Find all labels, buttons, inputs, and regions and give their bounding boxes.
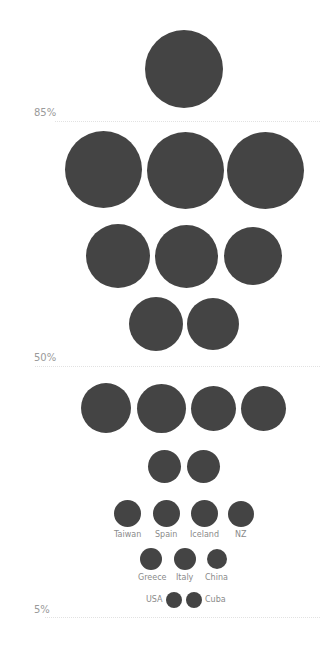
label-iceland: Iceland — [190, 530, 219, 539]
data-bubble — [187, 298, 239, 350]
bubble-chart: 85% 50% 5% Taiwan Spain Iceland NZ Greec… — [0, 0, 327, 646]
data-bubble — [148, 450, 181, 483]
y-tick-50: 50% — [34, 352, 56, 363]
gridline-85 — [55, 121, 320, 122]
y-tick-5: 5% — [34, 604, 50, 615]
data-bubble — [129, 297, 183, 351]
bubble-italy — [174, 548, 196, 570]
bubble-nz — [228, 501, 254, 527]
data-bubble — [241, 386, 286, 431]
gridline-50 — [35, 366, 320, 367]
bubble-spain — [153, 500, 180, 527]
data-bubble — [81, 383, 131, 433]
data-bubble — [145, 30, 223, 108]
label-spain: Spain — [155, 530, 177, 539]
label-cuba: Cuba — [205, 595, 226, 604]
data-bubble — [147, 132, 224, 209]
data-bubble — [191, 386, 236, 431]
bubble-greece — [140, 548, 162, 570]
data-bubble — [137, 384, 186, 433]
gridline-5 — [45, 617, 320, 618]
bubble-china — [207, 549, 227, 569]
bubble-iceland — [191, 500, 218, 527]
label-taiwan: Taiwan — [114, 530, 141, 539]
data-bubble — [224, 227, 282, 285]
data-bubble — [187, 450, 220, 483]
label-usa: USA — [146, 595, 163, 604]
bubble-usa — [166, 592, 182, 608]
data-bubble — [86, 224, 150, 288]
label-nz: NZ — [235, 530, 246, 539]
bubble-taiwan — [114, 500, 141, 527]
label-italy: Italy — [176, 573, 193, 582]
data-bubble — [227, 132, 304, 209]
data-bubble — [155, 225, 218, 288]
label-china: China — [205, 573, 228, 582]
bubble-cuba — [186, 592, 202, 608]
y-tick-85: 85% — [34, 107, 56, 118]
data-bubble — [65, 131, 142, 208]
label-greece: Greece — [138, 573, 166, 582]
